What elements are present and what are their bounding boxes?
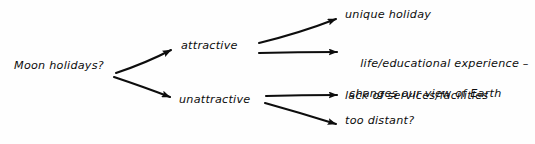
- node-lack-of-services: lack of services/facilities: [345, 88, 488, 103]
- node-unattractive: unattractive: [179, 92, 250, 107]
- node-unique-holiday: unique holiday: [345, 7, 431, 22]
- node-attractive: attractive: [181, 38, 238, 53]
- diagram-canvas: Moon holidays? attractive unattractive u…: [0, 0, 535, 144]
- connector-root-to-attractive: [116, 50, 171, 73]
- connector-root-to-unattractive: [114, 77, 170, 97]
- node-life-educational-experience-line1: life/educational experience –: [360, 57, 528, 70]
- node-too-distant: too distant?: [345, 113, 414, 128]
- node-root: Moon holidays?: [14, 58, 104, 73]
- connector-unattractive-to-too-distant: [265, 103, 336, 124]
- connector-attractive-to-unique-holiday: [259, 19, 336, 43]
- connector-unattractive-to-services: [266, 95, 337, 96]
- connector-attractive-to-experience: [259, 52, 337, 53]
